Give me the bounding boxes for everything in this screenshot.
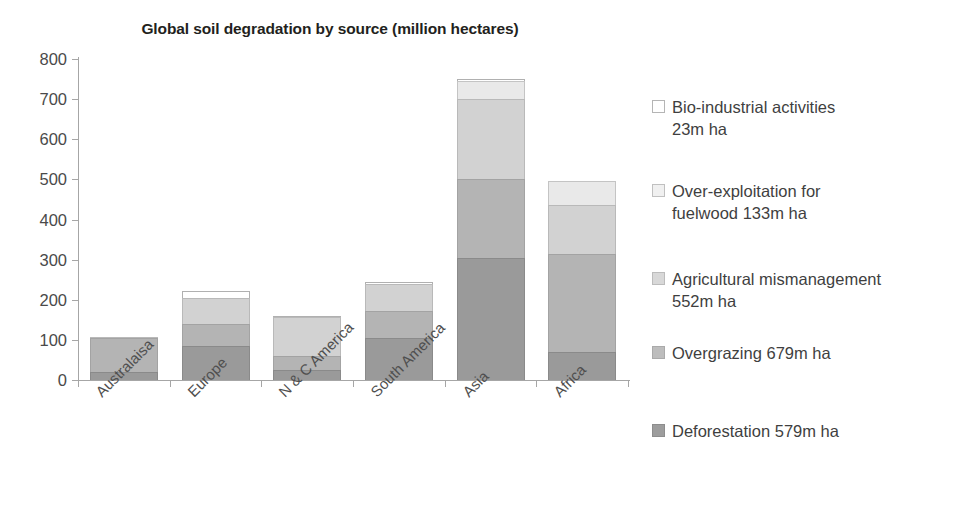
- legend-item[interactable]: Over-exploitation forfuelwood 133m ha: [652, 180, 821, 224]
- x-axis-tick: [78, 380, 79, 387]
- y-axis-tick: [72, 179, 78, 180]
- bar-segment[interactable]: [457, 99, 525, 179]
- y-axis-tick-label: 600: [39, 130, 67, 149]
- bar-segment[interactable]: [365, 284, 433, 311]
- y-axis-tick: [72, 260, 78, 261]
- y-axis-tick: [72, 340, 78, 341]
- y-axis-tick-label: 300: [39, 250, 67, 269]
- x-axis-tick: [170, 380, 171, 387]
- y-axis-tick-label: 700: [39, 90, 67, 109]
- legend-label: Bio-industrial activities23m ha: [672, 96, 835, 140]
- legend-item[interactable]: Overgrazing 679m ha: [652, 342, 831, 364]
- y-axis-tick: [72, 99, 78, 100]
- legend-swatch-icon: [652, 100, 665, 113]
- chart-title: Global soil degradation by source (milli…: [0, 20, 660, 38]
- legend-label: Deforestation 579m ha: [672, 420, 839, 442]
- bar-segment[interactable]: [457, 258, 525, 380]
- x-axis-tick: [628, 380, 629, 387]
- y-axis-tick: [72, 300, 78, 301]
- legend-item[interactable]: Bio-industrial activities23m ha: [652, 96, 835, 140]
- x-axis-tick: [536, 380, 537, 387]
- legend-swatch-icon: [652, 346, 665, 359]
- bar-segment[interactable]: [457, 179, 525, 257]
- legend-label: Over-exploitation forfuelwood 133m ha: [672, 180, 821, 224]
- y-axis-tick-label: 800: [39, 50, 67, 69]
- bar-segment[interactable]: [548, 205, 616, 253]
- bar-segment[interactable]: [548, 254, 616, 352]
- chart-container: Global soil degradation by source (milli…: [0, 0, 973, 522]
- y-axis-tick-label: 0: [58, 371, 67, 390]
- bar-segment[interactable]: [548, 181, 616, 206]
- y-axis-tick: [72, 59, 78, 60]
- x-axis-line: [78, 380, 630, 381]
- x-axis-tick: [261, 380, 262, 387]
- legend-label: Overgrazing 679m ha: [672, 342, 831, 364]
- x-axis-tick: [445, 380, 446, 387]
- legend-label: Agricultural mismanagement552m ha: [672, 268, 881, 312]
- bar-segment[interactable]: [457, 81, 525, 99]
- bar-segment[interactable]: [182, 324, 250, 346]
- legend-swatch-icon: [652, 184, 665, 197]
- bar-segment[interactable]: [182, 291, 250, 298]
- y-axis-tick-label: 100: [39, 330, 67, 349]
- bar-segment[interactable]: [182, 298, 250, 324]
- legend-swatch-icon: [652, 272, 665, 285]
- y-axis-tick: [72, 220, 78, 221]
- y-axis-tick: [72, 139, 78, 140]
- y-axis-tick-label: 200: [39, 290, 67, 309]
- legend-item[interactable]: Agricultural mismanagement552m ha: [652, 268, 881, 312]
- legend-swatch-icon: [652, 424, 665, 437]
- bar-africa[interactable]: [548, 181, 616, 380]
- y-axis-tick-label: 400: [39, 210, 67, 229]
- x-axis-tick: [353, 380, 354, 387]
- bar-asia[interactable]: [457, 79, 525, 380]
- legend-item[interactable]: Deforestation 579m ha: [652, 420, 839, 442]
- y-axis-tick-label: 500: [39, 170, 67, 189]
